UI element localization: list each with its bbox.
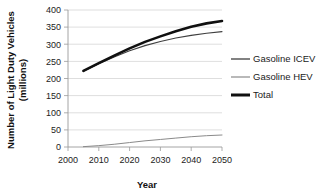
- y-tick-label: 0: [56, 142, 61, 152]
- y-tick-label: 250: [46, 57, 61, 67]
- chart-figure: 400 350 300 250 200 150 100 50 0 2000 20…: [0, 0, 324, 195]
- series-line-gasoline-icev: [83, 32, 222, 72]
- x-tick-label: 2000: [58, 155, 78, 165]
- gridlines: [68, 10, 222, 130]
- series-line-gasoline-hev: [83, 135, 222, 147]
- y-tick-label: 400: [46, 5, 61, 15]
- y-tick-label: 100: [46, 108, 61, 118]
- legend-label-gasoline-icev: Gasoline ICEV: [253, 53, 316, 64]
- chart-legend: Gasoline ICEV Gasoline HEV Total: [231, 53, 316, 100]
- series-line-total: [83, 21, 222, 71]
- x-tick-marks: [68, 147, 222, 151]
- x-tick-label: 2040: [181, 155, 201, 165]
- data-series-layer: [83, 21, 222, 147]
- x-tick-label: 2050: [212, 155, 232, 165]
- y-axis-title-line1: Number of Light Duty Vehicles: [5, 11, 16, 149]
- x-axis-tick-labels: 2000 2010 2020 2030 2040 2050: [58, 155, 232, 165]
- y-tick-label: 350: [46, 22, 61, 32]
- x-tick-label: 2010: [89, 155, 109, 165]
- legend-label-total: Total: [253, 89, 273, 100]
- y-tick-marks: [64, 10, 68, 147]
- x-tick-label: 2020: [120, 155, 140, 165]
- y-tick-label: 200: [46, 74, 61, 84]
- line-chart-canvas: 400 350 300 250 200 150 100 50 0 2000 20…: [0, 0, 324, 195]
- legend-label-gasoline-hev: Gasoline HEV: [253, 71, 313, 82]
- y-tick-label: 300: [46, 40, 61, 50]
- x-axis-title: Year: [137, 179, 157, 190]
- y-tick-label: 50: [51, 125, 61, 135]
- y-tick-label: 150: [46, 91, 61, 101]
- y-axis-tick-labels: 400 350 300 250 200 150 100 50 0: [46, 5, 61, 152]
- y-axis-title-line2: (millions): [17, 59, 28, 101]
- x-tick-label: 2030: [150, 155, 170, 165]
